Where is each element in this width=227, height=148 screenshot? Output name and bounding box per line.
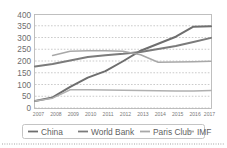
ytick-label: 0 — [26, 104, 31, 113]
ytick-label: 150 — [17, 69, 31, 78]
xtick-label: 2010 — [85, 111, 96, 117]
legend-label-china[interactable]: China — [41, 127, 63, 137]
x-axis-ticks: 2007 2008 2009 2010 2011 2012 2013 2014 … — [33, 111, 215, 117]
ytick-label: 100 — [17, 81, 31, 90]
line-chart: 0 50 100 150 200 250 300 350 400 2007 20… — [0, 0, 227, 148]
xtick-label: 2013 — [137, 111, 148, 117]
xtick-label: 2008 — [50, 111, 61, 117]
legend-label-world-bank[interactable]: World Bank — [91, 127, 135, 137]
xtick-label: 2009 — [68, 111, 79, 117]
y-axis-ticks: 0 50 100 150 200 250 300 350 400 — [17, 11, 31, 114]
xtick-label: 2007 — [33, 111, 44, 117]
xtick-label: 2012 — [120, 111, 131, 117]
xtick-label: 2015 — [172, 111, 183, 117]
ytick-label: 50 — [22, 92, 32, 101]
chart-legend: China World Bank Paris Club IMF — [23, 125, 212, 139]
ytick-label: 300 — [17, 34, 31, 43]
xtick-label: 2014 — [155, 111, 166, 117]
ytick-label: 350 — [17, 22, 31, 31]
legend-label-imf[interactable]: IMF — [197, 127, 211, 137]
ytick-label: 200 — [17, 57, 31, 66]
ytick-label: 250 — [17, 45, 31, 54]
chart-figure: 0 50 100 150 200 250 300 350 400 2007 20… — [0, 0, 227, 148]
xtick-label: 2011 — [103, 111, 114, 117]
ytick-label: 400 — [17, 11, 31, 20]
xtick-label: 2016 — [189, 111, 200, 117]
xtick-label: 2017 — [204, 111, 215, 117]
